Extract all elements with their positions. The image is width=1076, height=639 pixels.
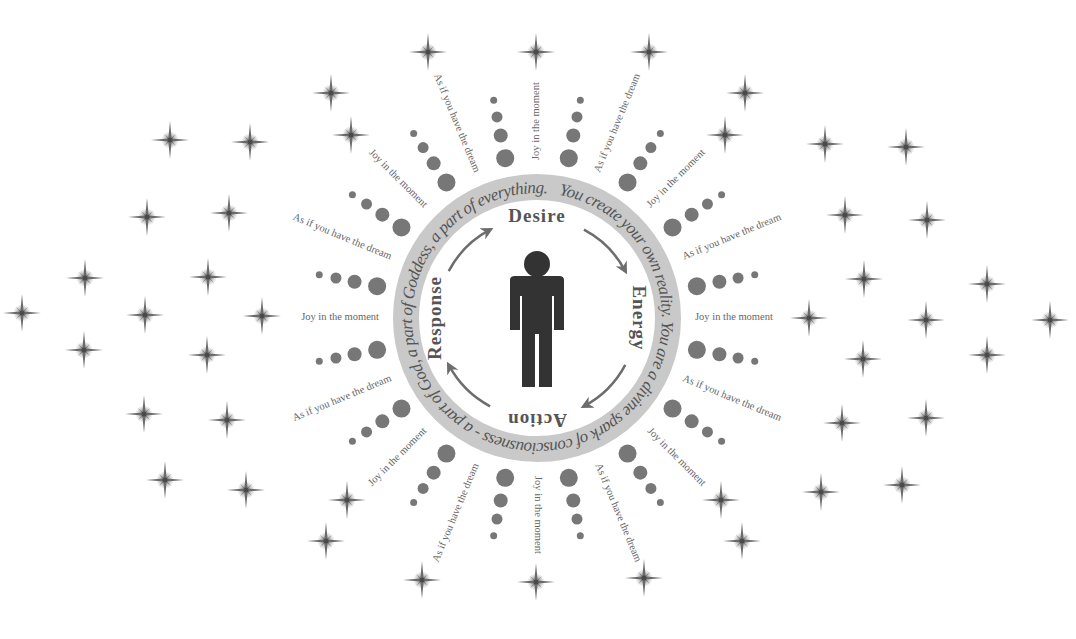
dot: [349, 438, 356, 445]
dot: [427, 156, 441, 170]
dot: [316, 271, 323, 278]
dot: [685, 414, 699, 428]
dot: [410, 130, 417, 137]
star-icon: [845, 260, 883, 298]
person-body: [510, 276, 564, 387]
dot: [645, 483, 656, 494]
person-icon: [510, 251, 564, 387]
dot: [619, 445, 637, 463]
dot: [496, 469, 514, 487]
dot-row: [688, 271, 758, 295]
cycle-label-action: Action: [507, 410, 567, 431]
dot-row: [688, 341, 758, 365]
dot: [664, 400, 682, 418]
dot: [619, 173, 637, 191]
cycle-arrow-icon: [449, 365, 490, 406]
star-icon: [189, 258, 227, 296]
star-icon: [125, 395, 163, 433]
dot: [330, 352, 341, 363]
person-head: [524, 251, 550, 277]
dot: [688, 341, 706, 359]
star-icon: [706, 116, 744, 154]
star-icon: [907, 399, 945, 437]
cycle-arrow-icon: [584, 365, 625, 406]
dot: [494, 493, 508, 507]
dot: [330, 273, 341, 284]
dot: [688, 277, 706, 295]
dot: [410, 499, 417, 506]
star-icon: [908, 201, 946, 239]
star-icon: [66, 259, 104, 297]
cycle-label-response: Response: [424, 276, 445, 360]
star-icon: [65, 331, 103, 369]
spoke-label: As if you have the dream: [291, 372, 393, 423]
dot: [490, 97, 497, 104]
dot: [361, 426, 372, 437]
dot: [702, 199, 713, 210]
dot: [718, 191, 725, 198]
star-icon: [625, 559, 663, 597]
star-icon: [243, 297, 281, 335]
star-icon: [208, 401, 246, 439]
star-icon: [126, 296, 164, 334]
star-icon: [409, 33, 447, 71]
star-icon: [3, 294, 41, 332]
diagram-svg: Joy in the momentAs if you have the drea…: [0, 0, 1076, 639]
star-icon: [802, 473, 840, 511]
star-icon: [231, 123, 269, 161]
dot-row: [349, 400, 411, 445]
cycle-label-desire: Desire: [508, 205, 565, 226]
cycle-arrow-icon: [449, 230, 490, 271]
dot-row: [560, 97, 584, 167]
cycle-label-energy: Energy: [629, 285, 650, 350]
dot: [577, 97, 584, 104]
dot: [571, 514, 582, 525]
dot: [702, 426, 713, 437]
spoke-label: Joy in the moment: [367, 147, 430, 210]
dot: [657, 130, 664, 137]
dot-row: [619, 445, 664, 507]
dot: [427, 466, 441, 480]
dot: [645, 142, 656, 153]
dot: [349, 191, 356, 198]
dot: [657, 499, 664, 506]
star-icon: [826, 196, 864, 234]
star-icon: [702, 481, 740, 519]
star-icon: [332, 116, 370, 154]
star-icon: [517, 563, 555, 601]
star-icon: [883, 466, 921, 504]
dot-row: [316, 341, 386, 365]
dot: [571, 111, 582, 122]
star-icon: [968, 336, 1006, 374]
dot: [733, 273, 744, 284]
dot: [560, 149, 578, 167]
diagram-canvas: Joy in the momentAs if you have the drea…: [0, 0, 1076, 639]
dot: [685, 208, 699, 222]
dot: [560, 469, 578, 487]
star-icon: [844, 340, 882, 378]
star-icon: [128, 198, 166, 236]
star-icon: [806, 125, 844, 163]
spoke-label: Joy in the moment: [533, 476, 544, 554]
cycle-arrow-icon: [584, 230, 625, 271]
dot: [490, 532, 497, 539]
star-icon: [517, 33, 555, 71]
star-icon: [907, 301, 945, 339]
dot-row: [490, 469, 514, 539]
star-icon: [210, 194, 248, 232]
dot: [368, 277, 386, 295]
spoke-label: Joy in the moment: [695, 311, 773, 322]
dot: [633, 156, 647, 170]
dot-row: [490, 97, 514, 167]
dot: [348, 347, 362, 361]
dot: [437, 173, 455, 191]
spoke-label: Joy in the moment: [646, 425, 709, 488]
dot: [496, 149, 514, 167]
dot-row: [664, 400, 726, 445]
spoke-label: Joy in the moment: [644, 146, 707, 209]
dot: [633, 466, 647, 480]
dot: [566, 493, 580, 507]
dot: [316, 358, 323, 365]
spoke-label: As if you have the dream: [681, 372, 783, 423]
star-icon: [403, 561, 441, 599]
